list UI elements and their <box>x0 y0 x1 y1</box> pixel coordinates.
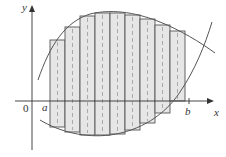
b-label: b <box>185 105 191 117</box>
area-diagram: y x 0 a b <box>0 0 226 157</box>
y-axis-label: y <box>21 1 27 13</box>
a-label: a <box>42 101 48 113</box>
y-axis-arrow-icon <box>29 5 35 12</box>
approximating-rectangles <box>50 13 185 135</box>
x-axis-arrow-icon <box>207 98 214 104</box>
origin-label: 0 <box>23 102 29 114</box>
x-axis-label: x <box>213 106 219 118</box>
